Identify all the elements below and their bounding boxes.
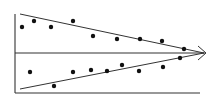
lower-data-point	[120, 63, 124, 67]
lower-data-point	[28, 70, 32, 74]
lower-data-point	[89, 68, 93, 72]
lower-data-point	[52, 84, 56, 88]
upper-data-point	[71, 19, 75, 23]
lower-data-point	[71, 70, 75, 74]
upper-data-point	[32, 19, 36, 23]
upper-data-point	[138, 37, 142, 41]
trend-lines	[20, 14, 204, 89]
upper-data-point	[20, 25, 24, 29]
lower-data-point	[178, 56, 182, 60]
upper-data-point	[49, 25, 53, 29]
lower-bound-trend-line	[20, 53, 204, 89]
lower-data-point	[137, 69, 141, 73]
converging-scatter-diagram	[0, 0, 220, 103]
upper-data-point	[160, 39, 164, 43]
upper-bound-trend-line	[20, 14, 204, 53]
lower-data-point	[161, 65, 165, 69]
lower-data-point	[105, 69, 109, 73]
upper-data-point	[91, 34, 95, 38]
upper-data-point	[115, 37, 119, 41]
upper-data-point	[182, 47, 186, 51]
